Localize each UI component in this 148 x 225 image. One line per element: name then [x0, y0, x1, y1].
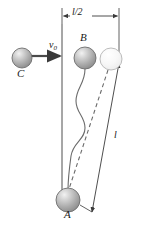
- physics-diagram: C B A l/2 l v0: [0, 0, 148, 225]
- wavy-string: [68, 69, 85, 190]
- ball-b-label: B: [80, 32, 87, 43]
- ball-c: [12, 48, 32, 68]
- ball-b-displaced: [100, 48, 122, 70]
- velocity-label: v0: [49, 40, 57, 52]
- velocity-subscript: 0: [53, 44, 57, 52]
- half-length-label: l/2: [72, 7, 83, 17]
- dashed-rod: [69, 70, 108, 189]
- ball-c-label: C: [17, 68, 24, 79]
- length-leader-bottom: [80, 205, 92, 212]
- ball-a-label: A: [64, 209, 71, 220]
- rod-length-label: l: [114, 130, 117, 140]
- diagram-canvas: [0, 0, 148, 225]
- ball-b: [74, 47, 96, 69]
